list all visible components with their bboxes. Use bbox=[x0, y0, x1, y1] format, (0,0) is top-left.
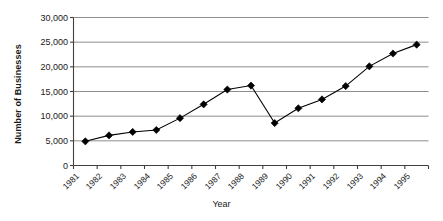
data-point-marker bbox=[224, 86, 231, 93]
data-point-marker bbox=[318, 96, 325, 103]
line-chart: Number of Businesses 05,00010,00015,0002… bbox=[0, 0, 443, 221]
data-point-marker bbox=[389, 50, 396, 57]
data-point-marker bbox=[153, 126, 160, 133]
data-point-marker bbox=[271, 119, 278, 126]
data-point-marker bbox=[176, 115, 183, 122]
data-point-marker bbox=[200, 101, 207, 108]
x-axis-title: Year bbox=[0, 199, 443, 209]
data-point-marker bbox=[247, 82, 254, 89]
data-point-marker bbox=[105, 132, 112, 139]
data-point-marker bbox=[295, 105, 302, 112]
data-point-marker bbox=[82, 138, 89, 145]
data-point-marker bbox=[129, 128, 136, 135]
series-line bbox=[85, 45, 416, 142]
